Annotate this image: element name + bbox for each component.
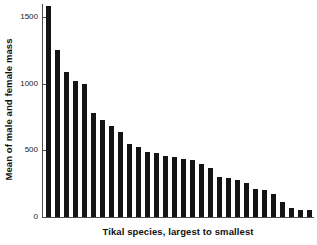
y-axis-tick-label: 500 — [25, 146, 38, 154]
y-axis-tick-label: 0 — [34, 213, 38, 221]
bar — [208, 168, 213, 217]
y-axis-tick-mark — [43, 217, 46, 218]
y-axis-tick-label: 1500 — [20, 13, 38, 21]
bar — [91, 113, 96, 218]
bar — [163, 156, 168, 217]
y-axis-tick-mark — [43, 84, 46, 85]
bar — [100, 120, 105, 217]
y-axis-tick-mark — [43, 17, 46, 18]
bar — [181, 159, 186, 217]
bar — [271, 194, 276, 217]
bar — [82, 84, 87, 217]
x-axis-title: Tikal species, largest to smallest — [42, 226, 314, 237]
bar — [46, 6, 51, 217]
bar-chart-figure: Mean of male and female mass 05001000150… — [0, 0, 317, 245]
y-axis-line — [42, 4, 43, 218]
bar — [226, 178, 231, 217]
bar — [235, 180, 240, 217]
bar — [172, 157, 177, 217]
bar — [262, 190, 267, 217]
y-axis-tick-mark — [43, 150, 46, 151]
bar — [109, 126, 114, 217]
bar — [253, 189, 258, 217]
plot-area — [42, 4, 314, 218]
bar — [244, 183, 249, 217]
y-axis-tick-label: 1000 — [20, 80, 38, 88]
bar — [307, 210, 312, 217]
bar — [64, 72, 69, 217]
bar — [217, 177, 222, 217]
bar — [289, 208, 294, 217]
y-axis-title-text: Mean of male and female mass — [3, 38, 14, 180]
bar — [199, 164, 204, 217]
bar — [154, 153, 159, 217]
bar-series — [44, 4, 314, 217]
bar — [280, 202, 285, 217]
bar — [145, 152, 150, 217]
bar — [190, 160, 195, 217]
bar — [73, 81, 78, 217]
x-axis-line — [42, 217, 314, 218]
bar — [55, 50, 60, 217]
bar — [298, 210, 303, 217]
bar — [127, 144, 132, 217]
y-axis-tick-labels: 050010001500 — [14, 0, 40, 245]
bar — [136, 147, 141, 217]
bar — [118, 132, 123, 217]
